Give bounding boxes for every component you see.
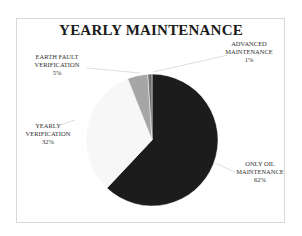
label-name: ADVANCED [214, 40, 284, 48]
label-name: ONLY OIL [230, 160, 290, 168]
label-earth-fault: EARTH FAULT VERIFICATION 5% [22, 53, 92, 77]
label-name: EARTH FAULT [22, 53, 92, 61]
pie-slices [86, 74, 218, 206]
label-pct: 62% [230, 176, 290, 184]
label-only-oil: ONLY OIL MAINTENANCE 62% [230, 160, 290, 184]
label-name2: MAINTENANCE [214, 48, 284, 56]
label-name2: VERIFICATION [22, 61, 92, 69]
label-pct: 5% [22, 69, 92, 77]
label-advanced-maintenance: ADVANCED MAINTENANCE 1% [214, 40, 284, 64]
pie-chart [0, 0, 302, 236]
label-name2: MAINTENANCE [230, 168, 290, 176]
label-pct: 1% [214, 56, 284, 64]
leader-line-earth [87, 68, 140, 73]
label-yearly-verification: YEARLY VERIFICATION 32% [12, 122, 84, 146]
label-name: YEARLY [12, 122, 84, 130]
label-pct: 32% [12, 138, 84, 146]
label-name2: VERIFICATION [12, 130, 84, 138]
